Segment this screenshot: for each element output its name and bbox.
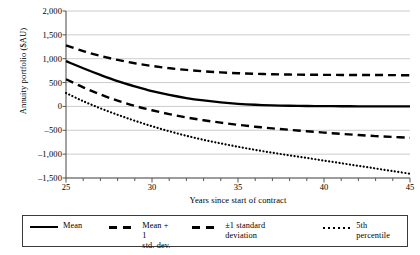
legend-item: ±1 standard deviation bbox=[191, 221, 296, 241]
x-axis-tick-label: 30 bbox=[148, 182, 157, 192]
chart-legend: MeanMean + 1 std. dev.±1 standard deviat… bbox=[22, 215, 408, 247]
x-axis-tick-label: 40 bbox=[320, 182, 329, 192]
x-axis-tick-label: 45 bbox=[406, 182, 415, 192]
annuity-portfolio-chart: Annuity portfolio ($AU) 2,0001,5001,0005… bbox=[0, 0, 420, 255]
x-axis-title: Years since start of contract bbox=[66, 195, 410, 205]
legend-key-dashed-icon bbox=[108, 222, 138, 233]
legend-key-dashed-icon bbox=[191, 222, 221, 233]
legend-item: 5th percentile bbox=[322, 221, 401, 241]
series-line bbox=[66, 45, 410, 75]
legend-key-solid-icon bbox=[29, 222, 59, 233]
legend-label: ±1 standard deviation bbox=[225, 221, 296, 241]
x-axis-tick-label: 25 bbox=[62, 182, 71, 192]
legend-label: Mean + 1 std. dev. bbox=[142, 221, 173, 251]
legend-label: Mean bbox=[63, 221, 82, 231]
legend-item: Mean bbox=[29, 221, 82, 233]
legend-key-dotted-icon bbox=[322, 222, 352, 233]
legend-label: 5th percentile bbox=[356, 221, 401, 241]
legend-item: Mean + 1 std. dev. bbox=[108, 221, 173, 251]
series-line bbox=[66, 79, 410, 137]
x-axis-tick-label: 35 bbox=[234, 182, 243, 192]
